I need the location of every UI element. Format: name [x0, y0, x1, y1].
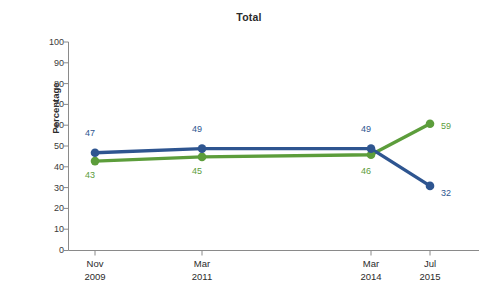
- x-axis-ticks: [95, 251, 430, 256]
- green-point-label-2: 46: [361, 166, 371, 176]
- x-tick-year-1: 2011: [162, 271, 242, 284]
- x-tick-label-3: Jul 2015: [390, 258, 470, 283]
- plot-area: [0, 0, 498, 300]
- green-point-label-1: 45: [192, 166, 202, 176]
- x-tick-year-3: 2015: [390, 271, 470, 284]
- blue-point-label-3: 32: [441, 188, 451, 198]
- x-tick-label-0: Nov 2009: [55, 258, 135, 283]
- green-point-label-3: 59: [441, 121, 451, 131]
- blue-point-label-0: 47: [85, 128, 95, 138]
- blue-point-label-1: 49: [192, 124, 202, 134]
- x-tick-label-1: Mar 2011: [162, 258, 242, 283]
- x-tick-month-0: Nov: [55, 258, 135, 271]
- y-axis-ticks: [64, 42, 69, 251]
- x-tick-month-3: Jul: [390, 258, 470, 271]
- green-point-label-0: 43: [85, 170, 95, 180]
- chart-container: Total Percentage 100 90 80 70 60 50 40 3…: [0, 0, 498, 300]
- x-tick-month-1: Mar: [162, 258, 242, 271]
- blue-series-line: [95, 149, 430, 186]
- x-tick-year-0: 2009: [55, 271, 135, 284]
- blue-point-label-2: 49: [361, 124, 371, 134]
